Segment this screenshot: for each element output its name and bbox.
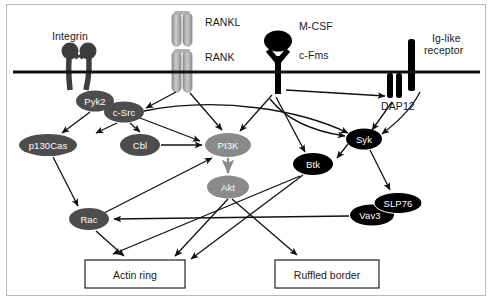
iglike-receptor — [408, 39, 415, 91]
dap12-receptor — [387, 73, 402, 98]
edge-csrc-to-p130cas — [96, 123, 117, 133]
edge-cfms-to-pi3k — [240, 95, 272, 131]
edge-cfms-to-btk — [276, 97, 305, 152]
syk-label: Syk — [356, 134, 372, 145]
edge-rac-to-pi3k — [104, 158, 212, 213]
edge-akt-to-ruffled-border — [232, 199, 297, 255]
akt-node[interactable]: Akt — [207, 176, 249, 199]
iglike-label-line1: Ig-like — [432, 32, 461, 44]
c-src-label: c-Src — [113, 107, 136, 118]
edge-pyk2-to-p130cas — [62, 112, 90, 133]
rankl-ligand — [172, 11, 192, 46]
cbl-label: Cbl — [133, 140, 148, 151]
actin-ring-label: Actin ring — [113, 269, 157, 281]
iglike-label-line2: receptor — [424, 44, 463, 56]
c-src-node[interactable]: c-Src — [104, 102, 144, 123]
signaling-pathway-diagram: Pyk2 c-Src p130Cas Cbl PI3K Akt Btk Syk — [0, 0, 493, 301]
edge-rac-to-actin-ring — [96, 231, 124, 256]
slp76-node[interactable]: SLP76 — [374, 193, 422, 214]
edge-vav3-to-rac — [114, 216, 349, 219]
edge-csrc-to-cbl — [130, 123, 140, 132]
pyk2-label: Pyk2 — [84, 96, 106, 107]
edge-rank-to-csrc — [146, 92, 176, 108]
diagram-canvas: Pyk2 c-Src p130Cas Cbl PI3K Akt Btk Syk — [0, 0, 493, 301]
edge-syk-to-slp76 — [370, 150, 390, 190]
cbl-node[interactable]: Cbl — [120, 134, 160, 156]
integrin-receptor — [62, 43, 97, 91]
btk-node[interactable]: Btk — [293, 153, 333, 175]
mcsf-label: M-CSF — [299, 20, 333, 32]
vav3-label: Vav3 — [359, 210, 380, 221]
pi3k-node[interactable]: PI3K — [205, 133, 251, 157]
rankl-label: RANKL — [205, 16, 241, 28]
dap12-label: DAP12 — [381, 100, 415, 112]
edge-p130cas-to-rac — [53, 157, 78, 206]
ruffled-border-box[interactable]: Ruffled border — [275, 260, 379, 288]
p130cas-label: p130Cas — [29, 140, 68, 151]
btk-label: Btk — [306, 159, 320, 170]
edge-csrc-to-syk — [144, 105, 348, 133]
cfms-label: c-Fms — [299, 49, 329, 61]
pi3k-label: PI3K — [218, 140, 240, 151]
ruffled-border-label: Ruffled border — [294, 269, 361, 281]
integrin-label: Integrin — [52, 30, 88, 42]
edge-cfms-to-dap12 — [286, 90, 385, 96]
edge-btk-to-ruffled-border-left — [113, 176, 300, 254]
slp76-label: SLP76 — [383, 198, 412, 209]
rac-node[interactable]: Rac — [69, 208, 109, 230]
edge-syk-to-btk — [337, 144, 348, 158]
rank-label: RANK — [205, 51, 235, 63]
edge-iglike-to-syk — [382, 92, 420, 134]
rac-label: Rac — [80, 214, 97, 225]
cfms-receptor — [264, 31, 292, 95]
edge-akt-to-actin-ring — [175, 199, 228, 256]
akt-label: Akt — [221, 182, 235, 193]
edge-rank-to-pi3k — [190, 93, 222, 130]
syk-node[interactable]: Syk — [346, 129, 382, 150]
p130cas-node[interactable]: p130Cas — [19, 134, 77, 156]
actin-ring-box[interactable]: Actin ring — [85, 260, 185, 288]
